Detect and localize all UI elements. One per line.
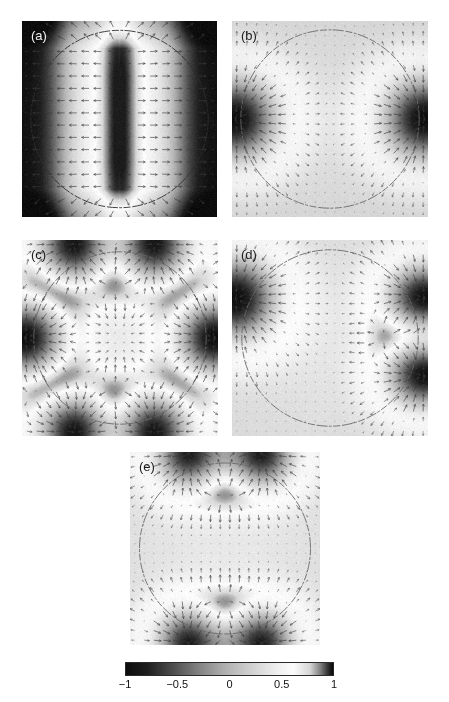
figure-canvas: (a) (b) (c) (d) (e) −1−0.500.51 — [0, 0, 449, 702]
vector-field-quiver — [235, 240, 425, 436]
domain-circle — [31, 30, 208, 207]
panel-e — [130, 452, 320, 645]
panel-c-overlay — [22, 240, 218, 436]
panel-a-overlay — [22, 21, 217, 217]
panel-c — [22, 240, 218, 436]
vector-field-quiver — [25, 21, 214, 217]
colorbar-tick-1: −0.5 — [157, 677, 197, 691]
colorbar-tick-2: 0 — [210, 677, 250, 691]
vector-field-quiver — [23, 243, 218, 434]
vector-field-quiver — [235, 23, 425, 215]
panel-e-overlay — [130, 452, 320, 645]
colorbar: −1−0.500.51 — [125, 662, 334, 676]
domain-circle — [242, 250, 418, 426]
colorbar-tick-3: 0.5 — [262, 677, 302, 691]
panel-b-overlay — [232, 21, 428, 217]
colorbar-tick-0: −1 — [105, 677, 145, 691]
colorbar-tick-labels: −1−0.500.51 — [111, 677, 348, 693]
domain-circle — [241, 30, 419, 208]
vector-field-quiver — [130, 452, 320, 645]
panel-a — [22, 21, 217, 217]
panel-d-overlay — [232, 240, 428, 436]
domain-circle — [140, 463, 311, 634]
colorbar-tick-4: 1 — [314, 677, 354, 691]
panel-b — [232, 21, 428, 217]
colorbar-gradient — [125, 662, 334, 676]
panel-d — [232, 240, 428, 436]
